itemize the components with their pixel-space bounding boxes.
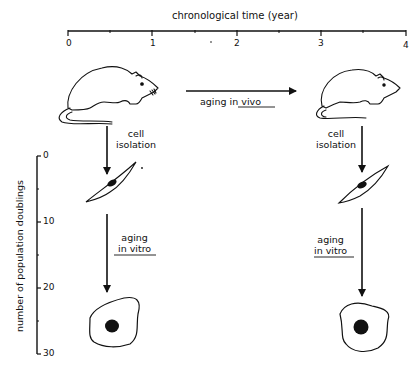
young-late-cell-icon bbox=[90, 298, 140, 347]
doublings-axis bbox=[37, 156, 41, 354]
doublings-tick-20: 20 bbox=[43, 282, 54, 292]
time-tick-1: 1 bbox=[150, 38, 156, 48]
doublings-tick-10: 10 bbox=[43, 216, 54, 226]
young-early-cell-icon bbox=[86, 162, 143, 202]
old-early-cell-icon bbox=[339, 166, 388, 203]
doublings-tick-0: 0 bbox=[43, 150, 49, 160]
old-in-vitro-label: aging in vitro bbox=[314, 234, 347, 256]
time-tick-4: 4 bbox=[403, 40, 409, 50]
old-isolation-label: cell isolation bbox=[316, 128, 356, 150]
diagram-canvas bbox=[0, 0, 420, 367]
in-vivo-label: aging in vivo bbox=[200, 96, 261, 107]
time-axis-title: chronological time (year) bbox=[172, 10, 298, 21]
young-in-vitro-label: aging in vitro bbox=[118, 232, 151, 254]
in-vivo-label-aging: aging bbox=[200, 96, 227, 107]
young-isolation-label: cell isolation bbox=[116, 128, 156, 150]
in-vivo-label-term: in vivo bbox=[230, 96, 261, 107]
doublings-tick-30: 30 bbox=[43, 348, 54, 358]
time-tick-2: 2 bbox=[234, 38, 240, 48]
old-rat-icon bbox=[317, 69, 400, 118]
time-tick-3: 3 bbox=[318, 38, 324, 48]
old-late-cell-icon bbox=[340, 303, 389, 351]
time-tick-0: 0 bbox=[66, 38, 72, 48]
young-rat-icon bbox=[59, 67, 158, 124]
doublings-axis-title: number of population doublings bbox=[14, 180, 25, 332]
